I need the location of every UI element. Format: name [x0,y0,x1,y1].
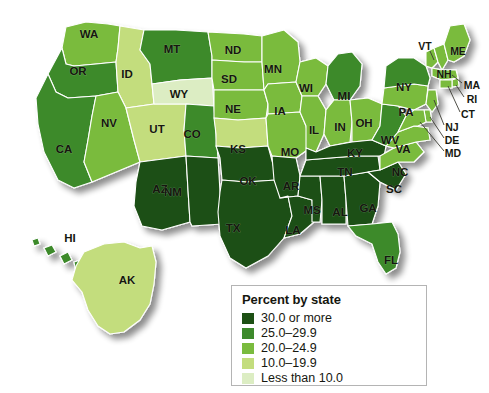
state-label-MS: MS [303,204,321,216]
state-label-OH: OH [355,117,372,129]
legend-title: Percent by state [242,292,426,307]
state-label-WV: WV [381,134,400,146]
state-label-ID: ID [121,68,133,80]
leader-line-RI [456,85,464,97]
state-NM[interactable] [186,156,222,226]
state-label-NE: NE [225,103,241,115]
state-label-NJ: NJ [445,121,459,133]
state-label-MN: MN [264,63,282,75]
legend-label-20-24: 20.0–24.9 [261,342,317,355]
state-AK[interactable] [72,242,156,334]
state-label-NC: NC [392,166,409,178]
legend-label-25-29: 25.0–29.9 [261,327,317,340]
state-label-CA: CA [56,143,73,155]
state-label-NH: NH [436,68,451,80]
state-label-AL: AL [332,206,347,218]
legend-row[interactable]: 25.0–29.9 [242,326,426,341]
state-label-NY: NY [396,81,412,93]
state-label-RI: RI [467,93,478,105]
state-label-AR: AR [283,180,300,192]
state-FL[interactable] [348,222,400,274]
state-label-IN: IN [334,121,346,133]
state-label-IA: IA [274,105,286,117]
legend-label-under10: Less than 10.0 [261,372,343,385]
state-label-DE: DE [445,134,460,146]
legend-label-10-19: 10.0–19.9 [261,357,317,370]
state-label-AK: AK [119,274,136,286]
state-label-PA: PA [398,106,413,118]
state-NE[interactable] [214,90,268,120]
state-label-NV: NV [101,117,117,129]
state-label-UT: UT [149,123,164,135]
state-label-MD: MD [445,147,462,159]
legend-row[interactable]: 10.0–19.9 [242,356,426,371]
legend-row[interactable]: Less than 10.0 [242,371,426,386]
state-label-MO: MO [281,146,300,158]
state-SD[interactable] [212,60,264,90]
state-CT[interactable] [440,80,452,88]
legend-swatch-20-24 [242,343,254,354]
state-label-CT: CT [461,108,476,120]
state-label-OK: OK [239,175,257,187]
state-label-WY: WY [170,88,189,100]
state-label-ND: ND [225,44,242,56]
state-NJ[interactable] [426,90,438,112]
legend-swatch-25-29 [242,328,254,339]
legend-swatch-30plus [242,313,254,324]
state-label-KS: KS [230,143,246,155]
state-GA[interactable] [344,172,380,226]
legend-swatch-10-19 [242,358,254,369]
state-MN[interactable] [262,30,300,90]
state-MT[interactable] [140,30,212,84]
state-label-WA: WA [80,28,99,40]
state-label-SC: SC [386,183,402,195]
legend-row[interactable]: 20.0–24.9 [242,341,426,356]
state-label-FL: FL [384,254,398,266]
state-label-GA: GA [359,202,376,214]
state-label-TX: TX [226,222,241,234]
legend-label-30plus: 30.0 or more [261,312,332,325]
state-label-IL: IL [309,124,319,136]
state-label-MA: MA [464,79,481,91]
state-label-TN: TN [337,166,352,178]
state-label-ME: ME [450,45,466,57]
state-label-VT: VT [418,40,432,52]
state-label-CO: CO [183,128,200,140]
leader-line-NJ [434,100,444,125]
state-label-MI: MI [338,90,351,102]
state-label-SD: SD [221,73,237,85]
state-label-WI: WI [299,82,313,94]
state-label-KY: KY [347,147,363,159]
state-label-OR: OR [69,65,87,77]
map-legend: Percent by state 30.0 or more 25.0–29.9 … [231,285,427,386]
state-label-MT: MT [164,43,181,55]
leader-line-CT [448,86,460,112]
state-label-NM: NM [164,186,182,198]
legend-swatch-under10 [242,373,254,384]
state-label-HI: HI [64,232,76,244]
state-label-LA: LA [285,224,300,236]
legend-row[interactable]: 30.0 or more [242,311,426,326]
